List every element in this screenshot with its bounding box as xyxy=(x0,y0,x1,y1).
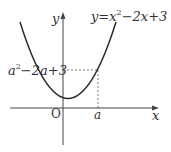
y-axis-label: y xyxy=(52,12,59,25)
origin-label: O xyxy=(51,108,61,120)
x-axis-label: x xyxy=(152,109,159,122)
parabola-curve xyxy=(20,22,116,99)
y-value-label: a2−2a+3 xyxy=(8,63,67,77)
y-axis-arrow-icon xyxy=(61,12,66,19)
point-a-label: a xyxy=(94,109,101,121)
parabola-diagram: y=x2−2x+3 a2−2a+3 y x O a xyxy=(0,0,171,152)
equation-label: y=x2−2x+3 xyxy=(91,9,167,23)
